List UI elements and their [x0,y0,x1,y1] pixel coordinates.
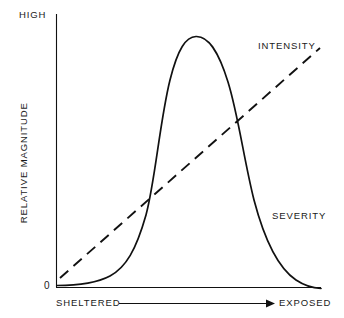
y-axis-origin-label: 0 [44,281,50,291]
x-axis-right-label: EXPOSED [279,298,331,308]
series-curve-severity [57,36,321,288]
y-axis-top-label: HIGH [19,10,46,20]
y-axis-title: RELATIVE MAGNITUDE [19,98,29,228]
series-label-intensity: INTENSITY [258,41,316,51]
series-line-intensity [60,48,320,278]
chart-figure: EXPOSED --> HIGH 0 RELATIVE MAGNITUDE SH… [0,0,344,318]
series-label-severity: SEVERITY [272,211,326,221]
x-axis-arrowhead-icon [266,300,275,308]
x-axis-left-label: SHELTERED [56,298,120,308]
